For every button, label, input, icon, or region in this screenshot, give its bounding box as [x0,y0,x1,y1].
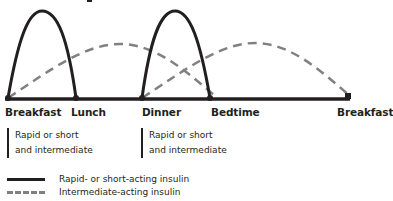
intermediate-curve-evening [142,43,350,98]
annotation-breakfast: Rapid or short and intermediate [7,128,93,158]
annotation-breakfast-line2: and intermediate [15,143,93,158]
label-breakfast: Breakfast [5,106,61,118]
label-lunch: Lunch [71,106,106,118]
label-bedtime: Bedtime [211,106,260,118]
annotation-dinner: Rapid or short and intermediate [141,128,227,158]
annotation-breakfast-line1: Rapid or short [15,128,93,143]
marker-breakfast [5,95,11,101]
marker-dinner [139,95,145,101]
rapid-curve-breakfast [8,11,76,98]
dashed-line-swatch-icon [7,191,45,194]
marker-next-breakfast [345,93,351,99]
annotation-dinner-line1: Rapid or short [149,128,227,143]
rapid-curve-dinner [142,11,210,98]
legend-label-intermediate: Intermediate-acting insulin [59,187,180,197]
label-dinner: Dinner [142,106,181,118]
cropped-title-glyph [87,0,92,2]
legend-item-intermediate: Intermediate-acting insulin [7,187,180,197]
legend-item-rapid: Rapid- or short-acting insulin [7,174,189,184]
marker-bedtime [207,95,213,101]
legend-label-rapid: Rapid- or short-acting insulin [59,174,189,184]
marker-lunch [73,95,79,101]
solid-line-swatch-icon [7,178,45,181]
label-next-breakfast: Breakfast [337,106,393,118]
annotation-dinner-line2: and intermediate [149,143,227,158]
